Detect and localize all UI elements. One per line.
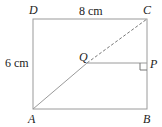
label-q: Q bbox=[79, 50, 88, 64]
dimension-top: 8 cm bbox=[79, 4, 103, 18]
label-b: B bbox=[143, 112, 151, 126]
geometry-diagram: D C A B Q P 8 cm 6 cm bbox=[0, 0, 162, 127]
rectangle-abcd bbox=[33, 19, 147, 109]
right-angle-marker bbox=[140, 63, 147, 70]
segment-aq bbox=[33, 63, 87, 109]
label-a: A bbox=[27, 112, 36, 126]
label-p: P bbox=[149, 57, 158, 71]
segment-qc-dashed bbox=[87, 19, 147, 63]
label-c: C bbox=[143, 3, 152, 17]
label-d: D bbox=[28, 3, 38, 17]
dimension-left: 6 cm bbox=[5, 56, 29, 70]
